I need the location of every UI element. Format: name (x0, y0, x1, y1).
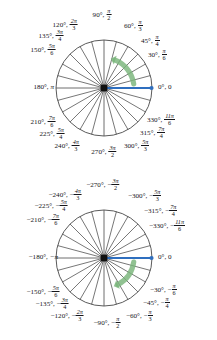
radian-value: −π (50, 253, 58, 261)
degree-value: −270°, (86, 181, 105, 189)
angle-label-45deg: 45°, π4 (141, 34, 160, 48)
radian-fraction: 5π3 (153, 189, 161, 203)
degree-value: −330°, (149, 222, 168, 230)
degree-value: 210°, (31, 118, 46, 126)
degree-value: 150°, (31, 46, 46, 54)
radian-fraction: 2π3 (70, 18, 78, 32)
angle-label-−330deg: −330°, −11π6 (149, 219, 185, 233)
degree-value: −60°, (126, 312, 142, 320)
radian-fraction: 11π6 (174, 219, 184, 233)
degree-value: 60°, (124, 22, 136, 30)
degree-value: −90°, (94, 319, 110, 327)
radian-fraction: 7π4 (169, 204, 177, 218)
radian-fraction: π3 (148, 309, 153, 323)
terminal-point-dot (149, 256, 153, 260)
angle-label-180deg: 180°, π (33, 84, 54, 91)
radian-fraction: 4π3 (72, 139, 80, 153)
degree-value: −45°, (143, 299, 159, 307)
degree-value: 270°, (91, 148, 106, 156)
angle-label-240deg: 240°, 4π3 (55, 139, 80, 153)
degree-value: 240°, (55, 142, 70, 150)
radian-value: π (50, 83, 54, 91)
angle-label-00deg: 0°, 0 (158, 254, 171, 261)
degree-value: 90°, (93, 11, 105, 19)
degree-value: 0°, 0 (158, 83, 171, 91)
angle-label-−315deg: −315°, −7π4 (144, 204, 177, 218)
radian-fraction: 3π4 (56, 29, 64, 43)
degree-value: −150°, (27, 288, 46, 296)
degree-value: −210°, (27, 216, 46, 224)
angle-label-−60deg: −60°, −π3 (126, 309, 153, 323)
degree-value: 315°, (140, 129, 155, 137)
degree-value: −120°, (51, 312, 70, 320)
angle-label-−90deg: −90°, −π2 (94, 316, 121, 330)
angle-label-−210deg: −210°, −7π6 (27, 213, 60, 227)
angle-label-−30deg: −30°, −π6 (150, 283, 177, 297)
angle-label-−45deg: −45°, −π4 (143, 296, 170, 310)
angle-label-−120deg: −120°, −2π3 (51, 309, 84, 323)
degree-value: 30°, (148, 51, 160, 59)
degree-value: 135°, (39, 32, 54, 40)
angle-label-315deg: 315°, 7π4 (140, 126, 165, 140)
radian-fraction: π6 (162, 48, 167, 62)
clockwise-rotation-arrow (118, 262, 134, 284)
angle-label-−300deg: −300°, −5π3 (128, 189, 161, 203)
degree-value: 0°, 0 (158, 253, 171, 261)
unit-circle-figure-pair: 90°, π2120°, 2π3135°, 3π4150°, 5π6180°, … (0, 0, 217, 340)
angle-label-−180deg: −180°, −π (29, 254, 58, 261)
radian-fraction: 3π2 (109, 145, 117, 159)
negative-angle-unit-circle: −270°, −3π2−240°, −4π3−225°, −5π4−210°, … (0, 170, 217, 340)
radian-fraction: 5π4 (60, 199, 68, 213)
radian-fraction: π2 (115, 316, 120, 330)
origin-marker (101, 255, 108, 262)
angle-label-150deg: 150°, 5π6 (31, 43, 56, 57)
radian-fraction: 2π3 (76, 309, 84, 323)
angle-label-270deg: 270°, 3π2 (91, 145, 116, 159)
positive-angle-unit-circle: 90°, π2120°, 2π3135°, 3π4150°, 5π6180°, … (0, 0, 217, 170)
degree-value: −180°, (29, 253, 48, 261)
origin-marker (101, 85, 108, 92)
degree-value: 180°, (33, 83, 48, 91)
radian-fraction: π4 (155, 34, 160, 48)
degree-value: 45°, (141, 37, 153, 45)
angle-label-90deg: 90°, π2 (93, 8, 112, 22)
radian-fraction: π3 (138, 19, 143, 33)
degree-value: −30°, (150, 286, 166, 294)
radian-fraction: π4 (165, 296, 170, 310)
angle-label-135deg: 135°, 3π4 (39, 29, 64, 43)
degree-value: 225°, (40, 130, 55, 138)
terminal-point-dot (149, 86, 153, 90)
radian-fraction: 7π4 (157, 126, 165, 140)
radian-fraction: π6 (172, 283, 177, 297)
angle-label-60deg: 60°, π3 (124, 19, 143, 33)
degree-value: −315°, (144, 207, 163, 215)
angle-label-−225deg: −225°, −5π4 (35, 199, 68, 213)
angle-label-330deg: 330°, 11π6 (147, 113, 175, 127)
angle-label-30deg: 30°, π6 (148, 48, 167, 62)
radian-fraction: 5π3 (141, 139, 149, 153)
radian-fraction: 4π3 (74, 188, 82, 202)
radian-fraction: 5π6 (48, 43, 56, 57)
degree-value: 300°, (124, 142, 139, 150)
radian-fraction: 7π6 (52, 213, 60, 227)
radian-fraction: π2 (106, 8, 111, 22)
degree-value: −225°, (35, 202, 54, 210)
angle-label-00deg: 0°, 0 (158, 84, 171, 91)
radian-fraction: 3π2 (112, 178, 120, 192)
angle-label-300deg: 300°, 5π3 (124, 139, 149, 153)
degree-value: −135°, (36, 300, 55, 308)
degree-value: 330°, (147, 116, 162, 124)
angle-label-−270deg: −270°, −3π2 (86, 178, 119, 192)
radian-fraction: 11π6 (164, 113, 174, 127)
degree-value: −300°, (128, 192, 147, 200)
